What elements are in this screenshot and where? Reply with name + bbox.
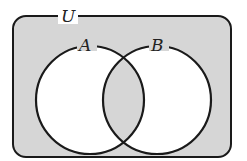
venn-diagram: U A B bbox=[0, 0, 247, 161]
set-b-label: B bbox=[150, 35, 164, 55]
universe-label: U bbox=[61, 6, 76, 26]
set-a-label: A bbox=[77, 35, 91, 55]
venn-svg: U A B bbox=[0, 0, 247, 161]
